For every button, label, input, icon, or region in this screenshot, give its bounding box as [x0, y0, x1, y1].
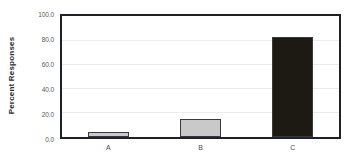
bar-c: [272, 37, 313, 137]
y-axis-title-text: Percent Responses: [8, 36, 17, 114]
y-tick-label: 40.0: [42, 86, 54, 93]
bars-layer: [62, 16, 339, 137]
bar-a: [88, 132, 129, 137]
x-tick-label-a: A: [106, 144, 111, 151]
bar-b: [180, 119, 221, 137]
x-tick-label-b: B: [198, 144, 203, 151]
plot-area: [60, 14, 341, 139]
y-tick-label: 100.0: [38, 11, 54, 18]
y-tick-label: 20.0: [42, 111, 54, 118]
y-tick-label: 60.0: [42, 61, 54, 68]
y-tick-label: 80.0: [42, 36, 54, 43]
x-tick-label-c: C: [290, 144, 295, 151]
y-axis-tick-labels: 0.020.040.060.080.0100.0: [22, 14, 56, 139]
x-axis-tick-labels: ABC: [60, 142, 341, 158]
bar-chart-figure: Percent Responses 0.020.040.060.080.0100…: [0, 0, 353, 166]
y-axis-title: Percent Responses: [0, 0, 24, 150]
y-tick-label: 0.0: [45, 136, 54, 143]
